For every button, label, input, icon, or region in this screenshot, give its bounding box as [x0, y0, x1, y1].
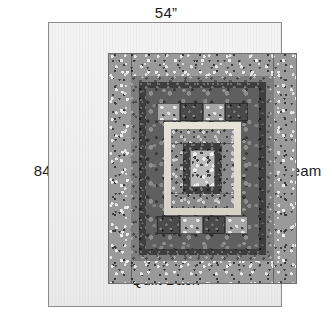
pieced-band-top: [157, 103, 248, 121]
pieced-tile: [203, 103, 226, 121]
quilt-diagram: 54” 84” seam Quilt Back: [0, 0, 332, 329]
pieced-tile: [157, 216, 180, 234]
pieced-tile: [225, 216, 248, 234]
width-dimension-label: 54”: [0, 4, 332, 21]
quilt-back-panel: Quilt Back: [48, 22, 282, 307]
quilt-block: [108, 53, 297, 284]
pieced-tile: [180, 216, 203, 234]
pieced-tile: [225, 103, 248, 121]
center-square: [190, 150, 215, 187]
pieced-tile: [157, 103, 180, 121]
pieced-tile: [203, 216, 226, 234]
pieced-tile: [180, 103, 203, 121]
pieced-band-bottom: [157, 216, 248, 234]
